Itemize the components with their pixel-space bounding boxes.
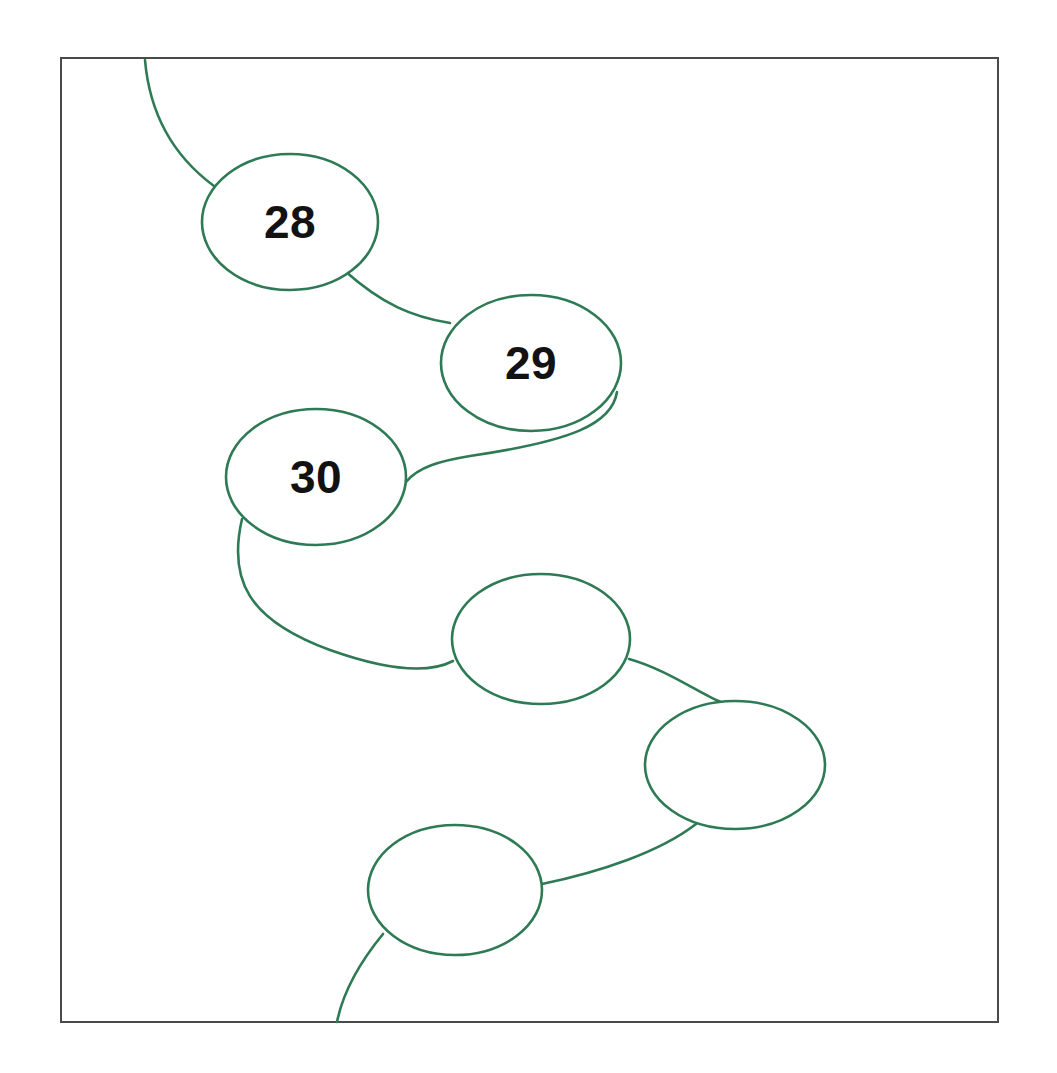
node-29[interactable]: 29 xyxy=(441,295,621,431)
node-4-ellipse[interactable] xyxy=(452,574,630,704)
edge-n6-to-canvas-bottom xyxy=(337,934,383,1022)
edge-canvas-top-to-n28 xyxy=(145,60,214,186)
node-28[interactable]: 28 xyxy=(202,154,378,290)
node-30-label: 30 xyxy=(290,451,342,503)
node-4-unlabeled[interactable] xyxy=(452,574,630,704)
node-layer: 28 29 30 xyxy=(202,154,825,955)
node-6-unlabeled[interactable] xyxy=(368,825,542,955)
edge-n5-to-n6 xyxy=(542,824,696,884)
node-30[interactable]: 30 xyxy=(226,409,406,545)
diagram-canvas: 28 29 30 xyxy=(0,0,1057,1073)
node-6-ellipse[interactable] xyxy=(368,825,542,955)
node-28-label: 28 xyxy=(264,196,316,248)
node-29-label: 29 xyxy=(505,337,557,389)
edge-n28-to-n29 xyxy=(345,271,450,323)
diagram-root: 28 29 30 xyxy=(0,0,1057,1073)
node-5-ellipse[interactable] xyxy=(645,701,825,829)
edge-n4-to-n5 xyxy=(629,659,723,703)
node-5-unlabeled[interactable] xyxy=(645,701,825,829)
